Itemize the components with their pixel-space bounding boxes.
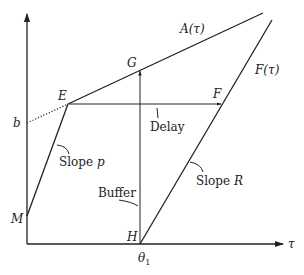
point-g-label: G <box>127 56 137 70</box>
arrival-curve <box>68 13 263 104</box>
arrival-curve-label: A(τ) <box>179 22 205 36</box>
slope-r-leader <box>190 162 203 172</box>
delay-leader <box>157 108 158 118</box>
delay-buffer-diagram: τ A(τ) F(τ) E F G H M b θ1 Delay Buffer … <box>0 0 304 275</box>
buffer-label: Buffer <box>98 186 136 200</box>
point-m-label: M <box>10 212 24 226</box>
slope-p-variable: p <box>97 155 105 169</box>
theta1-subscript: 1 <box>145 258 150 267</box>
slope-p-leader <box>57 145 69 154</box>
delay-label: Delay <box>150 120 185 134</box>
slope-r-variable: R <box>233 174 243 188</box>
point-f-label: F <box>212 87 222 101</box>
slope-p-label: Slope p <box>59 155 105 169</box>
point-h-label: H <box>126 230 138 244</box>
point-e-label: E <box>57 89 67 103</box>
theta1-label: θ1 <box>138 251 150 267</box>
point-b-label: b <box>13 116 21 130</box>
buffer-leader <box>119 200 138 206</box>
slope-r-label: Slope R <box>196 174 243 188</box>
x-axis-label: τ <box>288 237 295 251</box>
departure-curve-label: F(τ) <box>254 63 280 77</box>
